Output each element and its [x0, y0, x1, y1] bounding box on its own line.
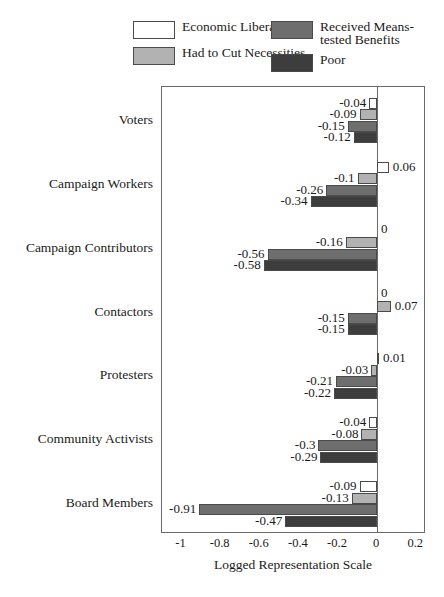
bar-row: -0.56 — [162, 249, 424, 260]
bar-row: -0.15 — [162, 313, 424, 324]
bar-group: -0.09-0.13-0.91-0.47 — [162, 481, 424, 527]
bar[interactable] — [369, 417, 377, 428]
bar-group: 00.07-0.15-0.15 — [162, 290, 424, 336]
bar-row: -0.1 — [162, 173, 424, 184]
bar-row: -0.03 — [162, 365, 424, 376]
y-axis-category-label: Board Members — [66, 496, 153, 510]
legend-entry-poor: Poor — [271, 53, 414, 72]
bar-row: -0.29 — [162, 452, 424, 463]
legend-label-poor: Poor — [320, 53, 346, 66]
bar-value-label: -0.12 — [324, 130, 351, 143]
bar-row: -0.15 — [162, 324, 424, 335]
y-axis-category-label: Protesters — [100, 368, 153, 382]
chart-legend: Economic Liberal Had to Cut Necessities … — [0, 20, 444, 82]
bar-row: 0.01 — [162, 353, 424, 364]
bar[interactable] — [268, 249, 378, 260]
bar-row: -0.08 — [162, 429, 424, 440]
bar-row: -0.15 — [162, 121, 424, 132]
bar-value-label: 0 — [381, 286, 388, 299]
bar-group: 0-0.16-0.56-0.58 — [162, 226, 424, 272]
bar[interactable] — [311, 196, 377, 207]
legend-column-right: Received Means- tested Benefits Poor — [271, 20, 414, 79]
bar[interactable] — [377, 301, 391, 312]
bar[interactable] — [360, 109, 378, 120]
bar-row: -0.13 — [162, 493, 424, 504]
bar-row: -0.21 — [162, 376, 424, 387]
bar-row: -0.91 — [162, 504, 424, 515]
x-axis-tick-label: -0.8 — [200, 537, 240, 550]
bar-group: 0.06-0.1-0.26-0.34 — [162, 162, 424, 208]
bar-row: -0.04 — [162, 417, 424, 428]
bar-value-label: -0.91 — [169, 502, 196, 515]
bar-row: 0 — [162, 290, 424, 301]
bar-value-label: -0.22 — [304, 386, 331, 399]
bar[interactable] — [264, 260, 377, 271]
legend-swatch-icon-poor — [271, 54, 313, 72]
bar[interactable] — [369, 98, 377, 109]
bar-row: -0.58 — [162, 260, 424, 271]
bar[interactable] — [348, 324, 377, 335]
bar-value-label: -0.29 — [290, 450, 317, 463]
bar-value-label: 0.06 — [393, 160, 416, 173]
bar-value-label: -0.03 — [341, 363, 368, 376]
bar-value-label: -0.58 — [234, 258, 261, 271]
legend-entry-received-means-tested-benefits: Received Means- tested Benefits — [271, 20, 414, 46]
bar[interactable] — [326, 185, 377, 196]
chart-plot-area: -0.04-0.09-0.15-0.120.06-0.1-0.26-0.340-… — [161, 86, 425, 533]
bar[interactable] — [361, 429, 377, 440]
bar-row: -0.34 — [162, 196, 424, 207]
bar[interactable] — [377, 353, 379, 364]
bar-row: -0.12 — [162, 132, 424, 143]
bar-row: -0.16 — [162, 237, 424, 248]
bar-row: -0.09 — [162, 481, 424, 492]
legend-label-received-means-tested-benefits: Received Means- tested Benefits — [320, 20, 414, 46]
bar-group: -0.04-0.08-0.3-0.29 — [162, 417, 424, 463]
legend-swatch-icon-had-to-cut-necessities — [133, 47, 175, 65]
bar-value-label: -0.16 — [316, 235, 343, 248]
y-axis-category-label: Campaign Contributors — [26, 241, 153, 255]
bar-value-label: -0.47 — [255, 514, 282, 527]
bar-group: 0.01-0.03-0.21-0.22 — [162, 353, 424, 399]
x-axis-tick-label: 0 — [356, 537, 396, 550]
bar[interactable] — [346, 237, 377, 248]
bar-value-label: 0.01 — [383, 351, 406, 364]
bar-value-label: -0.15 — [318, 322, 345, 335]
bar[interactable] — [348, 313, 377, 324]
bar-row: -0.22 — [162, 388, 424, 399]
legend-swatch-icon-economic-liberal — [133, 21, 175, 39]
bar-row: 0.06 — [162, 162, 424, 173]
bar[interactable] — [360, 481, 378, 492]
bar[interactable] — [320, 452, 377, 463]
bar[interactable] — [354, 132, 377, 143]
bar[interactable] — [358, 173, 378, 184]
bar-value-label: 0.07 — [395, 299, 418, 312]
bar-row: -0.04 — [162, 98, 424, 109]
bar[interactable] — [348, 121, 377, 132]
y-axis-category-label: Contactors — [95, 305, 154, 319]
bar[interactable] — [352, 493, 377, 504]
y-axis-category-label: Community Activists — [38, 432, 153, 446]
bar[interactable] — [336, 376, 377, 387]
y-axis-category-label: Campaign Workers — [49, 177, 153, 191]
bar[interactable] — [318, 440, 377, 451]
bar-row: -0.47 — [162, 516, 424, 527]
x-axis-tick-label: -1 — [161, 537, 201, 550]
bar-value-label: 0 — [381, 222, 388, 235]
x-axis-tick-label: 0.2 — [395, 537, 435, 550]
bar-group: -0.04-0.09-0.15-0.12 — [162, 98, 424, 144]
bar-row: 0 — [162, 226, 424, 237]
x-axis-label: Logged Representation Scale — [161, 557, 425, 573]
y-axis-category-label: Voters — [119, 113, 153, 127]
bar-value-label: -0.34 — [281, 194, 308, 207]
bar[interactable] — [371, 365, 377, 376]
bar[interactable] — [199, 504, 377, 515]
legend-swatch-icon-received-means-tested-benefits — [271, 21, 313, 39]
bar[interactable] — [334, 388, 377, 399]
bar-value-label: -0.1 — [334, 171, 355, 184]
bar[interactable] — [377, 162, 389, 173]
bar-row: 0.07 — [162, 301, 424, 312]
bar-value-label: -0.13 — [322, 491, 349, 504]
bar[interactable] — [285, 516, 377, 527]
x-axis-tick-label: -0.2 — [317, 537, 357, 550]
bar-value-label: -0.08 — [331, 427, 358, 440]
